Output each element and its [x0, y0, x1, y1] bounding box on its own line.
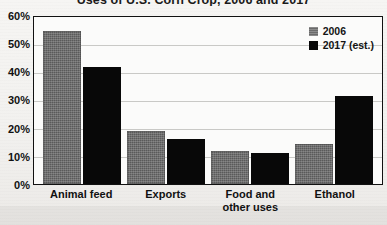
chart-title: Uses of U.S. Corn Crop, 2006 and 2017 — [0, 0, 387, 6]
bar-2017-food-and-other-uses[interactable] — [251, 153, 289, 184]
legend-item-2017[interactable]: 2017 (est.) — [309, 40, 374, 51]
y-axis: 60% 50% 40% 30% 20% 10% 0% — [0, 0, 30, 225]
y-tick-50: 50% — [0, 39, 30, 50]
x-label-line: Animal feed — [39, 188, 124, 201]
y-tick-20: 20% — [0, 124, 30, 135]
bar-2006-exports[interactable] — [127, 131, 165, 184]
bar-2017-exports[interactable] — [167, 139, 205, 184]
chart-page: Uses of U.S. Corn Crop, 2006 and 2017 60… — [0, 0, 387, 225]
x-label-ethanol: Ethanol — [293, 188, 378, 214]
x-axis-labels: Animal feed Exports Food and other uses … — [33, 188, 383, 214]
x-label-exports: Exports — [124, 188, 209, 214]
bar-2017-animal-feed[interactable] — [83, 67, 121, 184]
x-label-line: other uses — [208, 201, 293, 214]
x-label-food-and-other-uses: Food and other uses — [208, 188, 293, 214]
bar-group-animal-feed — [40, 17, 124, 184]
plot-area: 2006 2017 (est.) — [33, 16, 383, 185]
y-tick-60: 60% — [0, 11, 30, 22]
y-tick-10: 10% — [0, 152, 30, 163]
legend-label-2017: 2017 (est.) — [323, 40, 374, 51]
legend-swatch-icon-2017 — [309, 41, 318, 50]
y-tick-30: 30% — [0, 95, 30, 106]
bar-2017-ethanol[interactable] — [335, 96, 373, 184]
bar-2006-animal-feed[interactable] — [43, 31, 81, 184]
legend-swatch-icon-2006 — [309, 27, 318, 36]
bar-group-exports — [124, 17, 208, 184]
y-tick-0: 0% — [0, 180, 30, 191]
x-label-animal-feed: Animal feed — [39, 188, 124, 214]
x-label-line: Food and — [208, 188, 293, 201]
bar-group-food-and-other-uses — [208, 17, 292, 184]
y-tick-40: 40% — [0, 67, 30, 78]
chart-legend: 2006 2017 (est.) — [309, 26, 374, 51]
x-label-line: Ethanol — [293, 188, 378, 201]
bar-2006-ethanol[interactable] — [295, 144, 333, 184]
x-label-line: Exports — [124, 188, 209, 201]
legend-label-2006: 2006 — [323, 26, 346, 37]
bar-2006-food-and-other-uses[interactable] — [211, 151, 249, 184]
legend-item-2006[interactable]: 2006 — [309, 26, 374, 37]
